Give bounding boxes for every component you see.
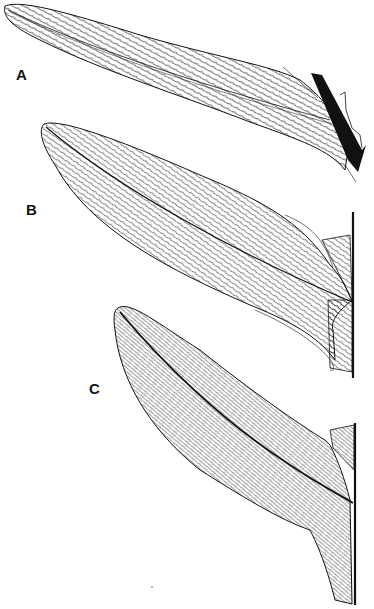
pinna-b-lamina bbox=[41, 123, 352, 360]
panel-label-b: B bbox=[26, 201, 37, 218]
panel-label-c: C bbox=[89, 380, 100, 397]
pinna-c bbox=[114, 306, 355, 605]
pinna-c-lamina bbox=[114, 306, 352, 604]
specimen-speck bbox=[151, 586, 153, 588]
panel-label-a: A bbox=[16, 66, 27, 83]
fern-pinnae-figure: A B C bbox=[0, 0, 374, 609]
drawing-canvas bbox=[0, 0, 374, 609]
pinna-b bbox=[41, 123, 353, 378]
